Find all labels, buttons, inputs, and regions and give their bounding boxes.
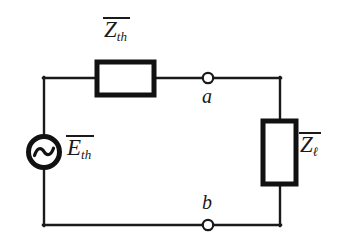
zth-subscript: th — [117, 29, 127, 44]
zl-subscript: ℓ — [313, 144, 318, 159]
terminal-a-label: a — [202, 86, 212, 106]
ac-voltage-source-symbol — [29, 137, 60, 168]
zl-symbol: Z — [300, 132, 313, 157]
circuit-schematic-svg — [0, 0, 347, 249]
load-impedance-label: Zℓ — [300, 133, 318, 158]
terminal-node-a-marker — [203, 73, 213, 83]
terminal-b-label: b — [202, 192, 212, 212]
load-impedance-box — [263, 121, 296, 184]
thevenin-impedance-label: Zth — [104, 18, 127, 43]
source-label: Eth — [67, 136, 91, 161]
eth-subscript: th — [81, 147, 91, 162]
circuit-diagram: Zth Eth Zℓ a b — [0, 0, 347, 249]
zth-symbol: Z — [104, 17, 117, 42]
thevenin-impedance-box — [97, 62, 154, 95]
eth-symbol: E — [67, 135, 81, 160]
terminal-node-b-marker — [203, 220, 213, 230]
